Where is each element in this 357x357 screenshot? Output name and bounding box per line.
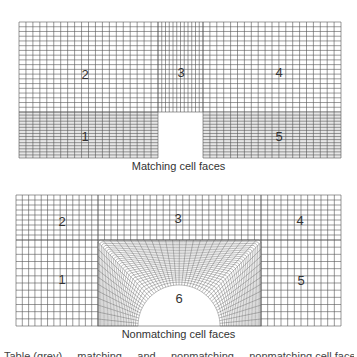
block-2 [16,195,98,240]
block-4 [203,22,341,112]
caption-nonmatching: Nonmatching cell faces [0,328,357,340]
block-5 [203,112,341,158]
caption-matching: Matching cell faces [0,160,357,172]
block-label-5: 5 [275,129,282,144]
block-label-1: 1 [58,272,65,287]
block-label-1: 1 [81,129,88,144]
block-label-5: 5 [297,273,304,288]
block-label-2: 2 [81,67,88,82]
block-6-curved [98,240,261,326]
mesh-matching [19,22,341,158]
cut-off-caption-text: Table (grey) ... matching ... and ... no… [4,349,354,357]
block-label-4: 4 [275,65,282,80]
block-label-3: 3 [177,65,184,80]
block-1 [16,240,98,326]
block-label-4: 4 [296,213,303,228]
block-label-2: 2 [58,214,65,229]
block-label-6: 6 [175,291,182,306]
block-label-3: 3 [174,211,181,226]
